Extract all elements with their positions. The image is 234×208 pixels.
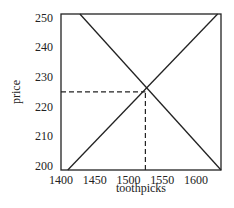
equilibrium-guides <box>61 92 145 170</box>
y-tick-label: 200 <box>35 159 53 173</box>
y-axis-label: price <box>9 80 23 104</box>
y-tick-label: 220 <box>35 100 53 114</box>
y-tick-label: 250 <box>35 11 53 25</box>
x-axis-label: toothpicks <box>116 181 166 195</box>
x-tick-label: 1600 <box>184 173 208 187</box>
y-axis-ticks: 200210220230240250 <box>35 11 53 173</box>
y-tick-label: 210 <box>35 129 53 143</box>
supply-demand-chart: 200210220230240250 14001450150015501600 … <box>0 0 234 208</box>
y-tick-label: 230 <box>35 70 53 84</box>
y-tick-label: 240 <box>35 40 53 54</box>
x-tick-label: 1450 <box>83 173 107 187</box>
x-tick-label: 1400 <box>49 173 73 187</box>
